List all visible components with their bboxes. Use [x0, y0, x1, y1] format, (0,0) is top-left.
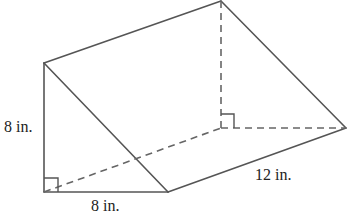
edge-top	[44, 1, 221, 63]
length-label: 12 in.	[255, 166, 291, 184]
height-label: 8 in.	[4, 118, 32, 136]
right-angle-marker-back	[221, 114, 234, 128]
prism-diagram	[0, 0, 356, 219]
base-label: 8 in.	[91, 197, 119, 215]
edge-front-hypotenuse	[44, 63, 168, 192]
edge-back-hypotenuse	[221, 1, 346, 128]
right-angle-marker-front	[44, 178, 58, 192]
